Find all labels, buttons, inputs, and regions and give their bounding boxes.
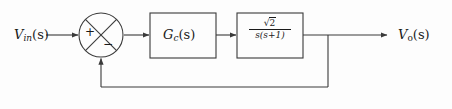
- input-label-subscript: in: [23, 33, 32, 43]
- plant-numerator: √2: [262, 19, 278, 29]
- input-label-argument: (s): [32, 27, 49, 42]
- controller-block-label: Gc(s): [163, 27, 195, 43]
- plant-numerator-radicand: 2: [269, 17, 277, 28]
- plant-denominator: s(s+1): [253, 30, 287, 40]
- controller-label-argument: (s): [178, 27, 195, 42]
- diagram-vector-layer: [0, 0, 452, 109]
- input-label-main: V: [14, 27, 23, 42]
- output-label-main: V: [398, 27, 407, 42]
- output-signal-label: Vo(s): [398, 27, 430, 43]
- summing-junction-minus-sign: −: [103, 37, 113, 51]
- summing-junction-plus-sign: +: [85, 25, 95, 39]
- block-diagram-canvas: Vin(s) + − Gc(s) √2 s(s+1) Vo(s): [0, 0, 452, 109]
- output-label-argument: (s): [413, 27, 430, 42]
- plant-block-transfer-function: √2 s(s+1): [237, 19, 303, 40]
- input-signal-label: Vin(s): [14, 27, 49, 43]
- controller-label-main: G: [163, 27, 173, 42]
